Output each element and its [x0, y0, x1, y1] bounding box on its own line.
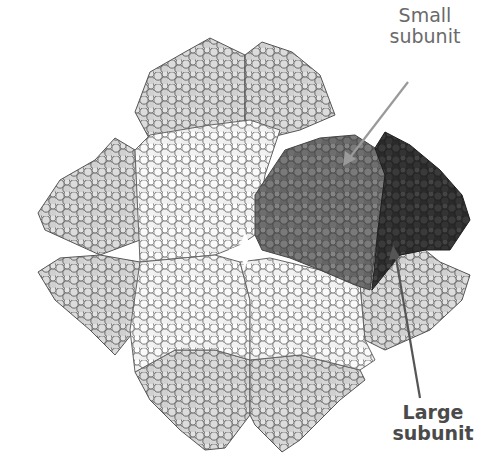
large-subunit-label-line1: Large: [383, 402, 483, 423]
small-subunit-label-line2: subunit: [375, 26, 475, 47]
left-upper-light-subunit: [38, 138, 140, 255]
large-subunit-label-line2: subunit: [383, 423, 483, 444]
bottom-left-light-subunit: [135, 350, 250, 450]
left-lower-light-subunit: [38, 255, 140, 355]
bottom-right-light-subunit: [250, 355, 365, 452]
small-subunit-label: Small subunit: [375, 5, 475, 47]
small-subunit-label-line1: Small: [375, 5, 475, 26]
large-subunit-label: Large subunit: [383, 402, 483, 444]
